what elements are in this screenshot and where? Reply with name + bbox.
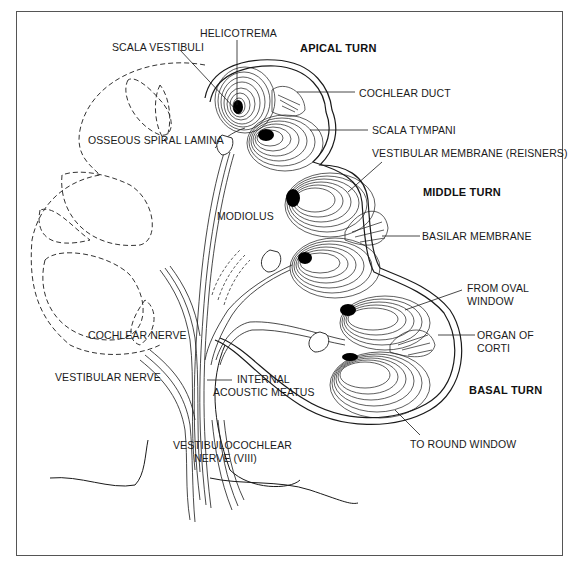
label-helicotrema: HELICOTREMA [200,27,277,39]
basal-scala-tympani [330,352,430,418]
label-scala-tympani: SCALA TYMPANI [372,124,456,136]
label-vestibular-nerve: VESTIBULAR NERVE [55,371,161,383]
heading-apical-turn: APICAL TURN [300,42,377,54]
label-organ-of-corti-line2: CORTI [477,342,510,354]
osseous-outline [31,63,205,355]
label-organ-of-corti-line1: ORGAN OF [477,329,534,341]
label-to-round-window: TO ROUND WINDOW [410,438,516,450]
internal-acoustic-meatus [50,345,358,503]
dashed-nerve-fibers [212,250,250,305]
heading-middle-turn: MIDDLE TURN [423,186,501,198]
label-vestibulocochlear-nerve-line1: VESTIBULOCOCHLEAR [173,439,292,451]
label-cochlear-duct: COCHLEAR DUCT [359,87,451,99]
label-modiolus: MODIOLUS [217,210,274,222]
label-vestibular-membrane: VESTIBULAR MEMBRANE (REISNERS) [372,147,568,159]
label-cochlear-nerve: COCHLEAR NERVE [88,329,187,341]
label-internal-acoustic-meatus-line1: INTERNAL [237,373,290,385]
label-vestibulocochlear-nerve-line2: NERVE (VIII) [194,452,257,464]
cochlear-wall [205,60,462,425]
label-osseous-spiral-lamina: OSSEOUS SPIRAL LAMINA [88,134,224,146]
label-from-oval-window-line1: FROM OVAL [467,282,529,294]
spiral-ganglion [217,135,329,352]
basal-scala-vestibuli [340,296,430,350]
label-basilar-membrane: BASILAR MEMBRANE [422,230,532,242]
label-internal-acoustic-meatus-line2: ACOUSTIC MEATUS [213,386,315,398]
apical-cochlear-duct [272,86,305,116]
apical-scala-tympani [247,115,323,171]
heading-basal-turn: BASAL TURN [469,384,542,396]
label-scala-vestibuli: SCALA VESTIBULI [112,41,204,53]
label-from-oval-window-line2: WINDOW [467,295,514,307]
